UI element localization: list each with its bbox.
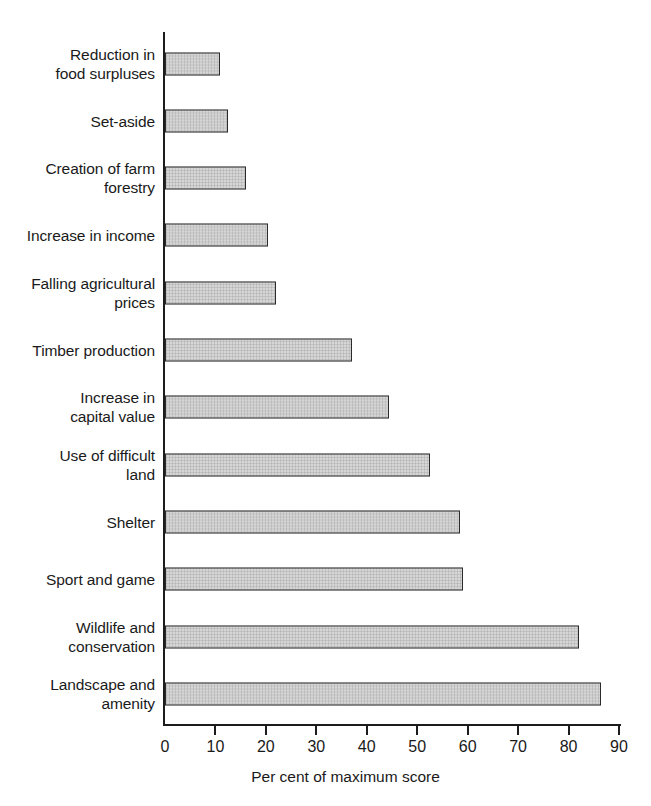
- x-axis-title: Per cent of maximum score: [0, 768, 651, 786]
- bar-category-label: Landscape and amenity: [0, 675, 155, 713]
- x-axis-tick-label: 0: [145, 737, 185, 756]
- bar-row: Wildlife and conservation: [0, 609, 651, 664]
- x-axis-tick: [618, 726, 620, 735]
- x-axis-tick: [214, 726, 216, 735]
- x-axis-tick-label: 50: [397, 737, 437, 756]
- bar-chart: Reduction in food surplusesSet-asideCrea…: [0, 0, 651, 806]
- x-axis-tick-label: 30: [296, 737, 336, 756]
- x-axis-tick: [366, 726, 368, 735]
- x-axis-tick-label: 10: [195, 737, 235, 756]
- bar-category-label: Reduction in food surpluses: [0, 45, 155, 83]
- bar-row: Reduction in food surpluses: [0, 36, 651, 91]
- bar-row: Creation of farm forestry: [0, 151, 651, 206]
- bar: [165, 682, 601, 705]
- x-axis-tick: [315, 726, 317, 735]
- bar: [165, 224, 268, 247]
- bar: [165, 109, 228, 132]
- x-axis-tick: [467, 726, 469, 735]
- bar-category-label: Increase in income: [0, 226, 155, 245]
- bar-category-label: Use of difficult land: [0, 446, 155, 484]
- bar: [165, 396, 389, 419]
- bar-category-label: Timber production: [0, 341, 155, 360]
- x-axis-tick: [568, 726, 570, 735]
- bar-row: Timber production: [0, 323, 651, 378]
- bar: [165, 167, 246, 190]
- bar-row: Increase in income: [0, 208, 651, 263]
- bar: [165, 625, 579, 648]
- x-axis-line: [163, 724, 621, 726]
- bar-category-label: Shelter: [0, 512, 155, 531]
- bar: [165, 281, 276, 304]
- bar-row: Set-aside: [0, 93, 651, 148]
- x-axis-tick: [265, 726, 267, 735]
- bar-row: Sport and game: [0, 552, 651, 607]
- x-axis-tick-label: 90: [599, 737, 639, 756]
- bar-row: Shelter: [0, 494, 651, 549]
- x-axis-tick-label: 60: [448, 737, 488, 756]
- bar: [165, 339, 352, 362]
- bar-row: Falling agricultural prices: [0, 265, 651, 320]
- bar: [165, 453, 430, 476]
- bar: [165, 510, 460, 533]
- bar-category-label: Falling agricultural prices: [0, 274, 155, 312]
- bar-category-label: Set-aside: [0, 111, 155, 130]
- x-axis-tick: [517, 726, 519, 735]
- bar-category-label: Sport and game: [0, 570, 155, 589]
- bar-row: Use of difficult land: [0, 437, 651, 492]
- x-axis-tick: [416, 726, 418, 735]
- bar-row: Increase in capital value: [0, 380, 651, 435]
- x-axis-tick-label: 20: [246, 737, 286, 756]
- x-axis-tick-label: 80: [549, 737, 589, 756]
- bar: [165, 568, 463, 591]
- bar-category-label: Creation of farm forestry: [0, 159, 155, 197]
- bar-row: Landscape and amenity: [0, 666, 651, 721]
- bar: [165, 52, 220, 75]
- x-axis-tick-label: 40: [347, 737, 387, 756]
- x-axis-tick-label: 70: [498, 737, 538, 756]
- bar-category-label: Wildlife and conservation: [0, 618, 155, 656]
- bar-category-label: Increase in capital value: [0, 388, 155, 426]
